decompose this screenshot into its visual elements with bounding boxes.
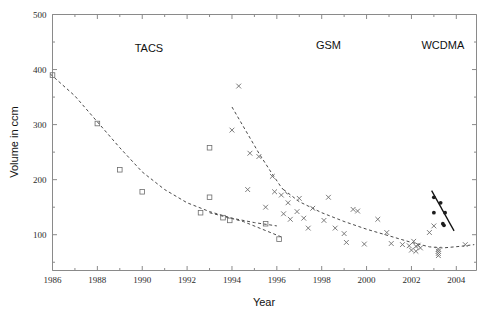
y-tick-label: 300 [33, 120, 47, 130]
marker-cross [333, 226, 338, 231]
marker-cross [263, 205, 268, 210]
marker-cross [342, 231, 347, 236]
y-tick-label: 500 [33, 10, 47, 20]
x-tick-label: 1988 [88, 275, 107, 285]
marker-cross [326, 195, 331, 200]
series-wcdma [432, 195, 447, 227]
series-annotations: TACSGSMWCDMA [135, 39, 465, 54]
marker-dot [443, 211, 447, 215]
marker-cross [272, 189, 277, 194]
marker-square [198, 210, 203, 215]
tacs-trend [50, 74, 277, 226]
marker-square [140, 189, 145, 194]
marker-cross [236, 84, 241, 89]
x-axis-tick-labels: 1986198819901992199419961998200020022004 [44, 275, 466, 285]
y-axis-ticks [53, 15, 477, 263]
marker-square [277, 237, 282, 242]
x-axis-title: Year [253, 296, 276, 308]
scatter-plot: 1986198819901992199419961998200020022004… [0, 0, 492, 320]
marker-cross [427, 230, 432, 235]
annotation-gsm: GSM [316, 39, 341, 51]
marker-cross [431, 224, 436, 229]
data-points [50, 73, 467, 258]
y-axis-title: Volume in ccm [8, 106, 20, 178]
marker-cross [281, 211, 286, 216]
series-gsm [230, 84, 468, 258]
marker-cross [351, 207, 356, 212]
marker-cross [288, 217, 293, 222]
chart-figure: 1986198819901992199419961998200020022004… [0, 0, 492, 320]
marker-cross [306, 226, 311, 231]
annotation-tacs: TACS [135, 42, 164, 54]
y-tick-label: 100 [33, 230, 47, 240]
x-tick-label: 2000 [358, 275, 377, 285]
marker-cross [295, 209, 300, 214]
x-tick-label: 2004 [447, 275, 466, 285]
marker-cross [230, 128, 235, 133]
marker-cross [279, 193, 284, 198]
gsm-early-trend [232, 107, 290, 197]
x-tick-label: 1992 [178, 275, 196, 285]
marker-cross [322, 218, 327, 223]
plot-frame [53, 15, 477, 271]
marker-square [207, 195, 212, 200]
annotation-wcdma: WCDMA [421, 39, 464, 51]
marker-cross [301, 216, 306, 221]
trend-lines [50, 74, 474, 248]
marker-dot [432, 195, 436, 199]
x-tick-label: 2002 [402, 275, 420, 285]
marker-cross [384, 230, 389, 235]
y-tick-label: 200 [33, 175, 47, 185]
marker-cross [245, 187, 250, 192]
marker-cross [310, 206, 315, 211]
marker-square [207, 145, 212, 150]
marker-cross [286, 200, 291, 205]
marker-dot [439, 201, 443, 205]
x-tick-label: 1996 [268, 275, 287, 285]
marker-cross [344, 240, 349, 245]
y-tick-label: 400 [33, 65, 47, 75]
series-tacs [50, 73, 281, 242]
y-axis-tick-labels: 100200300400500 [33, 10, 47, 240]
marker-dot [442, 223, 446, 227]
marker-dot [432, 211, 436, 215]
marker-cross [407, 243, 412, 248]
marker-cross [297, 196, 302, 201]
marker-cross [414, 249, 419, 254]
x-tick-label: 1998 [313, 275, 332, 285]
marker-cross [400, 242, 405, 247]
marker-square [118, 167, 123, 172]
marker-cross [362, 242, 367, 247]
marker-cross [248, 151, 253, 156]
x-tick-label: 1994 [223, 275, 242, 285]
marker-cross [355, 209, 360, 214]
marker-cross [463, 242, 468, 247]
x-tick-label: 1986 [44, 275, 63, 285]
marker-cross [389, 241, 394, 246]
x-tick-label: 1990 [133, 275, 152, 285]
marker-cross [409, 248, 414, 253]
marker-cross [418, 246, 423, 251]
marker-cross [375, 217, 380, 222]
x-axis-ticks [53, 15, 457, 271]
